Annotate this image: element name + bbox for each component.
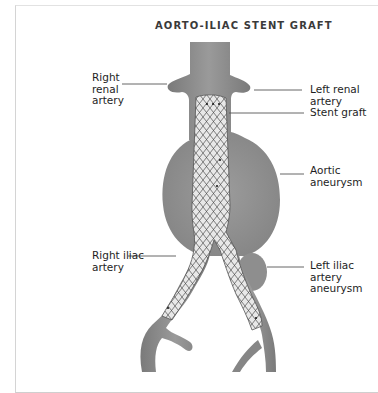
label-right-iliac-artery: Right iliac artery — [92, 250, 144, 273]
label-left-iliac-artery-aneurysm: Left iliac artery aneurysm — [310, 260, 362, 295]
label-right-renal-artery: Right renal artery — [92, 72, 124, 107]
label-left-renal-artery: Left renal artery — [310, 84, 360, 107]
label-stent-graft: Stent graft — [310, 107, 366, 119]
label-aortic-aneurysm: Aortic aneurysm — [310, 165, 362, 188]
